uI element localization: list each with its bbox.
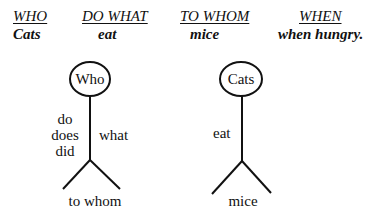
template-what-label: what [99,127,129,143]
example-feet-label: mice [228,193,257,209]
template-verb-did: did [55,143,75,159]
example-figure: Cats eat mice [212,62,271,209]
example-left-leg [212,161,242,194]
template-figure: Who do does did what to whom [51,62,129,209]
example-right-leg [242,161,271,193]
template-verb-does: does [51,127,79,143]
example-head-label: Cats [228,71,255,87]
template-head-label: Who [75,71,104,87]
stick-figures-diagram: Who do does did what to whom Cats eat mi… [0,0,379,211]
template-left-leg [63,160,90,189]
template-verb-do: do [58,111,73,127]
template-feet-label: to whom [69,193,122,209]
example-verb-label: eat [213,125,231,141]
template-right-leg [90,160,120,189]
